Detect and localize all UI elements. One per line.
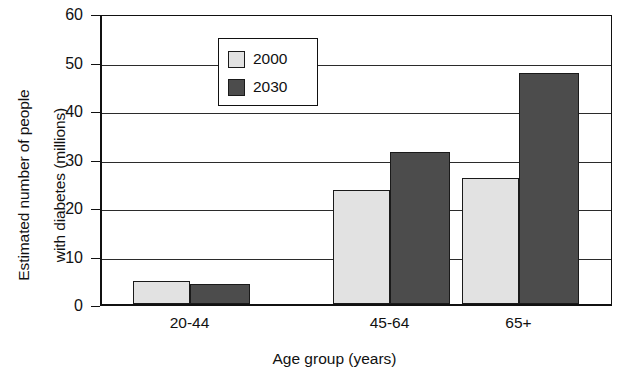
legend-item-2030: 2030 bbox=[228, 73, 317, 101]
bar-20-44-2000 bbox=[133, 281, 190, 304]
y-tick-label-30: 30 bbox=[23, 153, 83, 169]
y-tick-label-50: 50 bbox=[23, 56, 83, 72]
y-tick-20 bbox=[91, 209, 100, 210]
y-axis-title-line2: with diabetes (millions) bbox=[51, 35, 69, 335]
bar-20-44-2030 bbox=[190, 284, 250, 304]
y-axis-title: Estimated number of people with diabetes… bbox=[0, 35, 87, 335]
legend-label-2030: 2030 bbox=[253, 79, 287, 95]
bar-45-64-2000 bbox=[333, 190, 390, 304]
x-axis-title-text: Age group (years) bbox=[272, 350, 396, 368]
x-axis-title: Age group (years) bbox=[0, 350, 629, 368]
y-tick-10 bbox=[91, 258, 100, 259]
y-tick-50 bbox=[91, 64, 100, 65]
x-category-label-20-44: 20-44 bbox=[130, 314, 250, 332]
bar-65+-2030 bbox=[519, 73, 579, 304]
y-tick-40 bbox=[91, 112, 100, 113]
y-tick-0 bbox=[91, 306, 100, 307]
y-tick-60 bbox=[91, 15, 100, 16]
bar-chart-figure: Estimated number of people with diabetes… bbox=[0, 0, 629, 379]
bar-65+-2000 bbox=[462, 178, 519, 304]
y-tick-label-40: 40 bbox=[23, 104, 83, 120]
y-axis-title-line1: Estimated number of people bbox=[15, 35, 33, 335]
legend-swatch-2000 bbox=[228, 51, 245, 68]
y-tick-label-60: 60 bbox=[23, 7, 83, 23]
y-tick-label-20: 20 bbox=[23, 201, 83, 217]
legend-item-2000: 2000 bbox=[228, 45, 317, 73]
x-category-label-65+: 65+ bbox=[459, 314, 579, 332]
legend-label-2000: 2000 bbox=[253, 51, 287, 67]
x-category-label-45-64: 45-64 bbox=[330, 314, 450, 332]
y-tick-label-10: 10 bbox=[23, 250, 83, 266]
legend: 2000 2030 bbox=[218, 38, 318, 106]
y-tick-30 bbox=[91, 161, 100, 162]
bar-45-64-2030 bbox=[390, 152, 450, 304]
gridline-50 bbox=[102, 65, 611, 66]
legend-swatch-2030 bbox=[228, 79, 245, 96]
plot-area: 2000 2030 bbox=[100, 15, 612, 306]
y-tick-label-0: 0 bbox=[23, 298, 83, 314]
